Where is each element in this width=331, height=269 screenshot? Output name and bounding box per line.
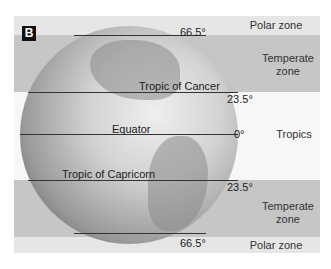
earth-globe bbox=[20, 26, 238, 244]
tropic-of-cancer-line bbox=[28, 92, 238, 93]
south-america-landmass bbox=[148, 136, 208, 231]
label-equator: Equator bbox=[112, 123, 151, 135]
zone-label-temperate-north: Temperatezone bbox=[256, 52, 320, 78]
zone-label-tropics: Tropics bbox=[268, 128, 320, 141]
label-tropic-of-capricorn: Tropic of Capricorn bbox=[62, 168, 155, 180]
label-tropic-of-cancer: Tropic of Cancer bbox=[139, 80, 220, 92]
zone-label-polar-north: Polar zone bbox=[236, 19, 316, 32]
tropic-of-capricorn-line bbox=[28, 180, 238, 181]
zone-label-temperate-south: Temperatezone bbox=[256, 200, 320, 226]
label-0-degrees: 0° bbox=[234, 128, 245, 140]
climate-zones-diagram: B 66.5° Tropic of Cancer 23.5° Equator 0… bbox=[14, 16, 320, 253]
label-66-5-north: 66.5° bbox=[180, 26, 206, 38]
panel-badge: B bbox=[22, 26, 36, 41]
zone-label-polar-south: Polar zone bbox=[236, 239, 316, 252]
label-66-5-south: 66.5° bbox=[180, 237, 206, 249]
label-23-5-south: 23.5° bbox=[227, 181, 253, 193]
antarctic-circle-line bbox=[74, 233, 206, 234]
label-23-5-north: 23.5° bbox=[227, 93, 253, 105]
